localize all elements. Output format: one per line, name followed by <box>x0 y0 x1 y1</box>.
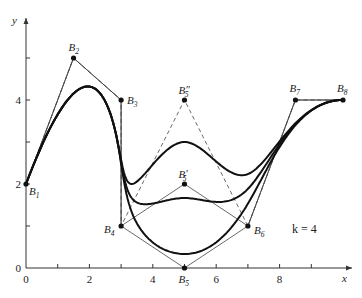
x-tick-label: 0 <box>23 273 29 285</box>
y-axis-arrow-icon <box>24 18 29 24</box>
x-tick-label: 2 <box>87 273 93 285</box>
control-points: B1B2B3B4B5B′5B″5B6B7B8 <box>23 41 347 288</box>
y-tick-label: 0 <box>16 262 22 274</box>
control-point-label: B5 <box>179 273 190 288</box>
x-axis-label: x <box>341 272 347 284</box>
control-point <box>119 223 124 228</box>
y-axis-label: y <box>11 14 17 26</box>
control-point <box>23 181 28 186</box>
control-point-label: B1 <box>29 185 39 200</box>
y-tick-label: 4 <box>16 94 22 106</box>
x-tick-label: 4 <box>150 273 156 285</box>
bspline-chart: 02468024xy B1B2B3B4B5B′5B″5B6B7B8 k = 4 <box>0 0 362 298</box>
control-point-label: B3 <box>127 94 138 109</box>
control-point-label: B″5 <box>179 83 191 99</box>
order-annotation: k = 4 <box>292 222 317 236</box>
control-point <box>71 55 76 60</box>
y-tick-label: 2 <box>16 178 22 190</box>
control-point-label: B′5 <box>179 167 189 183</box>
control-point <box>293 97 298 102</box>
x-axis-arrow-icon <box>346 266 352 271</box>
control-point-label: B6 <box>254 224 265 239</box>
control-point-label: B7 <box>289 82 300 97</box>
control-point <box>119 97 124 102</box>
control-point <box>245 223 250 228</box>
control-point-label: B2 <box>69 41 80 56</box>
control-point <box>340 97 345 102</box>
control-point-label: B8 <box>337 82 348 97</box>
x-tick-label: 8 <box>277 273 283 285</box>
control-point-label: B4 <box>104 223 115 238</box>
axes: 02468024xy <box>11 14 352 285</box>
control-point <box>182 265 187 270</box>
x-tick-label: 6 <box>213 273 219 285</box>
